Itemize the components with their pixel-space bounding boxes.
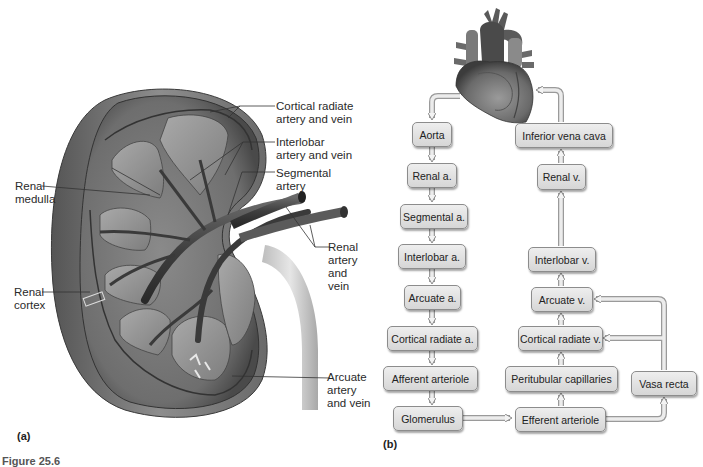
- box-inferior-vena-cava: Inferior vena cava: [515, 123, 613, 148]
- box-renal-vein: Renal v.: [537, 164, 586, 190]
- box-vasa-recta: Vasa recta: [631, 371, 697, 396]
- box-cortical-radiate-vein: Cortical radiate v.: [518, 326, 603, 351]
- figure-caption: Figure 25.6: [2, 455, 60, 467]
- box-peritubular-capillaries: Peritubular capillaries: [505, 366, 618, 392]
- box-afferent-arteriole: Afferent arteriole: [383, 366, 478, 391]
- box-efferent-arteriole: Efferent arteriole: [515, 407, 606, 432]
- box-aorta: Aorta: [412, 122, 452, 147]
- box-arcuate-vein: Arcuate v.: [531, 287, 593, 312]
- box-arcuate-artery: Arcuate a.: [404, 285, 461, 310]
- panel-b-letter: (b): [383, 438, 397, 450]
- box-interlobar-vein: Interlobar v.: [528, 247, 596, 272]
- box-segmental-artery: Segmental a.: [400, 204, 468, 229]
- box-cortical-radiate-artery: Cortical radiate a.: [387, 326, 478, 351]
- box-renal-artery: Renal a.: [407, 163, 457, 188]
- box-glomerulus: Glomerulus: [393, 406, 463, 431]
- box-interlobar-artery: Interlobar a.: [398, 244, 466, 269]
